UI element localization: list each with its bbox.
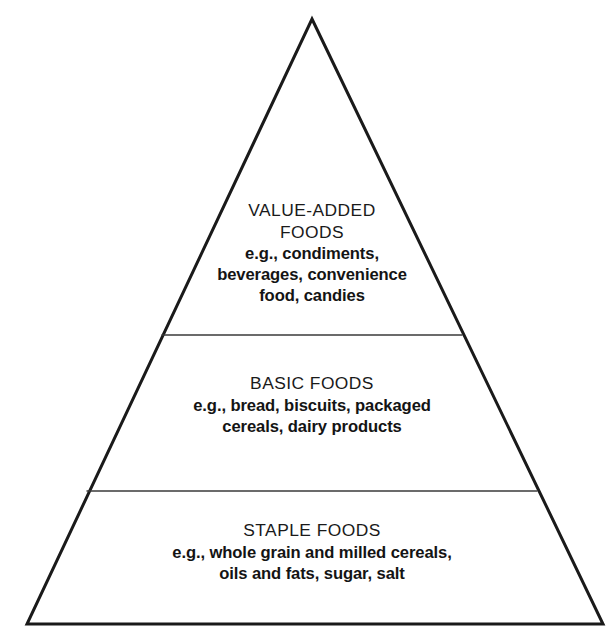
food-pyramid-diagram: VALUE-ADDED FOODS e.g., condiments, beve… bbox=[0, 0, 613, 644]
pyramid-shape bbox=[0, 0, 613, 644]
pyramid-outline bbox=[27, 19, 603, 624]
